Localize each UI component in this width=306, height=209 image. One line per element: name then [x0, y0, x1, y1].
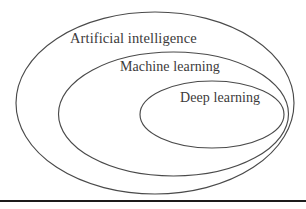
label-deep-learning: Deep learning	[180, 91, 260, 105]
label-artificial-intelligence: Artificial intelligence	[70, 31, 197, 46]
label-machine-learning: Machine learning	[120, 60, 220, 74]
figure-container: Artificial intelligence Machine learning…	[0, 0, 306, 209]
horizontal-divider	[0, 200, 306, 202]
